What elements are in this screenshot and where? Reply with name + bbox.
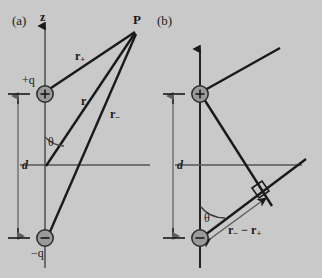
theta-label-b: θ (204, 212, 210, 224)
path-difference-label-b: r− − r+ (228, 224, 261, 238)
r-plus-label-a: r+ (75, 50, 85, 64)
panel-b-tag: (b) (157, 14, 172, 27)
separation-label-b: d (177, 159, 183, 171)
r-plus-subscript: + (80, 54, 85, 64)
positive-charge-label-a: +q (22, 74, 35, 86)
panel-a-tag: (a) (12, 14, 26, 27)
path-diff-plus-subscript: + (256, 228, 261, 238)
theta-label-a: θ (48, 136, 54, 148)
separation-label-a: d (22, 159, 28, 171)
r-label-a: r (81, 95, 86, 107)
negative-charge-label-a: −q (31, 247, 44, 259)
z-axis-label-a: z (40, 11, 45, 23)
physics-figure: (a) z +q −q d θ P r+ r r− (b) d θ r− − r… (0, 0, 322, 278)
path-diff-operator: − (238, 223, 251, 237)
r-minus-label-a: r− (110, 108, 120, 122)
r-minus-subscript: − (115, 112, 120, 122)
field-point-label-a: P (133, 13, 141, 26)
